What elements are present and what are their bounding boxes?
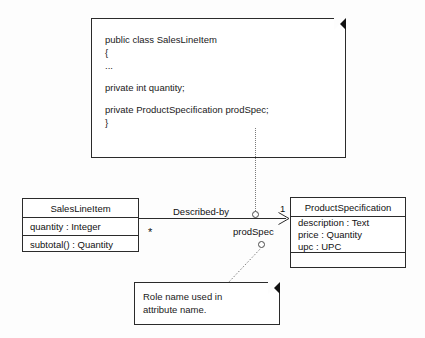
note-anchor-dot-upper	[252, 211, 259, 218]
code-line-3: ...	[105, 59, 345, 72]
code-line-4	[105, 72, 345, 81]
code-line-5: private int quantity;	[105, 81, 345, 94]
comment-line-2: attribute name.	[143, 303, 279, 316]
class-name-compartment: ProductSpecification	[291, 198, 405, 217]
note-fold-cut-icon	[334, 18, 346, 30]
class-box-saleslineitem[interactable]: SalesLineItem quantity : Integer subtota…	[22, 198, 139, 252]
class-name-compartment: SalesLineItem	[23, 199, 138, 218]
uml-diagram-canvas: public class SalesLineItem { ... private…	[0, 0, 425, 338]
operation-row: subtotal() : Quantity	[30, 239, 131, 251]
note-connector-vertical	[255, 128, 256, 211]
association-name-label: Described-by	[173, 206, 229, 217]
class-attributes-compartment: description : Text price : Quantity upc …	[291, 217, 405, 253]
comment-line-1: Role name used in	[143, 290, 279, 303]
code-line-6	[105, 94, 345, 103]
class-operations-compartment: subtotal() : Quantity	[23, 236, 138, 253]
attribute-row: price : Quantity	[298, 229, 398, 241]
target-role-label: prodSpec	[233, 226, 274, 237]
class-name-label: ProductSpecification	[298, 202, 398, 213]
class-box-productspecification[interactable]: ProductSpecification description : Text …	[290, 197, 406, 268]
code-note[interactable]: public class SalesLineItem { ... private…	[91, 18, 346, 158]
code-line-8: }	[105, 116, 345, 129]
role-name-note[interactable]: Role name used in attribute name.	[134, 282, 280, 325]
class-attributes-compartment: quantity : Integer	[23, 218, 138, 236]
target-multiplicity-label: 1	[280, 203, 285, 214]
code-line-2: {	[105, 46, 345, 59]
code-line-7: private ProductSpecification prodSpec;	[105, 103, 345, 116]
attribute-row: quantity : Integer	[30, 221, 131, 233]
note-connector-diagonal	[228, 247, 264, 285]
attribute-row: description : Text	[298, 217, 398, 229]
class-operations-compartment	[291, 253, 405, 269]
attribute-row: upc : UPC	[298, 241, 398, 253]
code-line-1: public class SalesLineItem	[105, 33, 345, 46]
association-line[interactable]	[139, 218, 286, 219]
source-multiplicity-label: *	[148, 226, 152, 238]
class-name-label: SalesLineItem	[30, 203, 131, 214]
note-fold-cut-icon	[268, 282, 280, 294]
